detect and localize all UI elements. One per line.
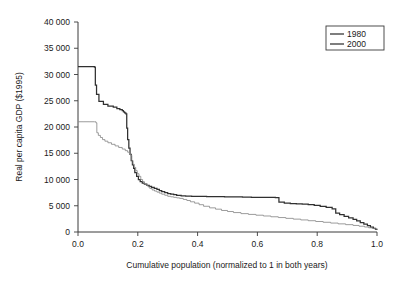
x-axis-title: Cumulative population (normalized to 1 i… (126, 260, 327, 270)
legend-label-1980: 1980 (347, 29, 366, 39)
y-tick-label: 30 000 (44, 70, 70, 80)
y-tick-label: 35 000 (44, 43, 70, 53)
x-tick-label: 0.4 (192, 239, 204, 249)
y-tick-label: 5 000 (49, 201, 71, 211)
x-tick-label: 1.0 (371, 239, 383, 249)
chart-svg: 05 00010 00015 00020 00025 00030 00035 0… (0, 0, 410, 283)
y-axis-title: Real per capita GDP ($1995) (14, 72, 24, 182)
x-tick-label: 0.6 (251, 239, 263, 249)
x-tick-label: 0.2 (132, 239, 144, 249)
x-tick-label: 0.8 (311, 239, 323, 249)
y-tick-label: 20 000 (44, 122, 70, 132)
y-tick-label: 40 000 (44, 17, 70, 27)
y-tick-label: 10 000 (44, 175, 70, 185)
x-tick-label: 0.0 (72, 239, 84, 249)
y-tick-labels: 05 00010 00015 00020 00025 00030 00035 0… (44, 17, 70, 237)
y-tick-label: 15 000 (44, 148, 70, 158)
chart-figure: 05 00010 00015 00020 00025 00030 00035 0… (0, 0, 410, 283)
y-tick-label: 0 (65, 227, 70, 237)
y-tick-label: 25 000 (44, 96, 70, 106)
legend: 1980 2000 (326, 26, 384, 50)
legend-label-2000: 2000 (347, 39, 366, 49)
